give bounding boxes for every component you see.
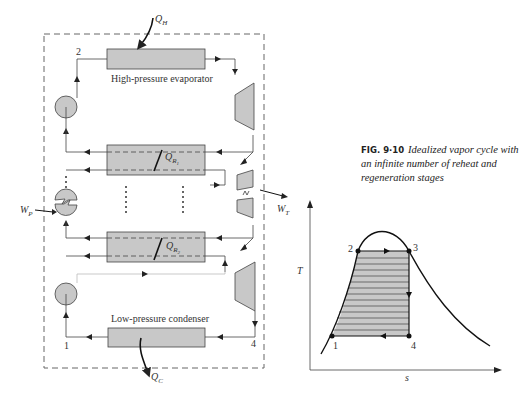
figure-number: FIG. 9·10	[361, 145, 404, 155]
hp-turbine	[235, 83, 254, 130]
ts-point-3: 3	[413, 242, 418, 253]
evaporator-label: High-pressure evaporator	[111, 73, 214, 84]
schematic-diagram: High-pressure evaporator QH 2 QR1 WT	[0, 0, 521, 409]
state-point-1: 1	[64, 340, 69, 351]
qh-label: QH	[155, 13, 168, 27]
lp-turbine	[235, 262, 255, 311]
reheater-2	[107, 232, 205, 262]
figure-caption: FIG. 9·10Idealized vapor cycle with an i…	[361, 143, 521, 185]
ts-diagram: T s 2 3 1	[297, 200, 502, 383]
qc-label: QC	[151, 371, 163, 385]
state-point-2: 2	[76, 46, 81, 57]
s-axis-label: s	[405, 372, 409, 383]
wt-label: WT	[277, 203, 290, 217]
condenser-label: Low-pressure condenser	[111, 313, 210, 324]
ts-point-2: 2	[348, 243, 353, 254]
mid-turbine-upper	[237, 170, 253, 190]
mid-turbine-lower	[237, 198, 253, 218]
work-pump	[55, 189, 77, 216]
ts-point-1: 1	[333, 340, 338, 351]
state-point-4: 4	[251, 338, 256, 349]
t-axis-label: T	[297, 265, 304, 276]
low-pressure-condenser	[108, 328, 205, 347]
wp-label: WP	[20, 204, 33, 218]
ts-point-4: 4	[411, 340, 416, 351]
ellipsis-dots	[65, 176, 184, 213]
high-pressure-evaporator	[107, 49, 205, 69]
reheater-1	[107, 145, 205, 175]
